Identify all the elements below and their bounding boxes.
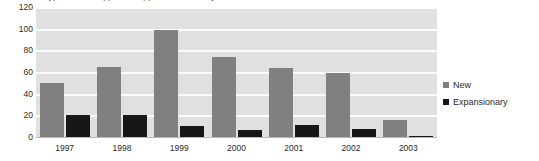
gridline [36, 29, 437, 31]
gridline [36, 50, 437, 52]
y-axis-tick-label: 60 [1, 68, 33, 77]
bar-new-2003 [383, 120, 407, 138]
x-axis-tick-label: 1999 [154, 143, 204, 153]
gridline [36, 8, 437, 9]
chart-legend: New Expansionary [443, 76, 539, 110]
x-axis-tick-label: 2001 [269, 143, 319, 153]
bar-new-1997 [40, 83, 64, 138]
bar-chart: Types of loan approvals approved over th… [0, 0, 539, 161]
bar-new-1998 [97, 67, 121, 139]
legend-item-expansionary: Expansionary [443, 93, 539, 110]
legend-item-new: New [443, 76, 539, 93]
legend-swatch-new-icon [443, 82, 449, 88]
y-axis: 120100806040200 [0, 0, 33, 161]
bar-expansionary-1998 [123, 115, 147, 138]
bar-expansionary-1997 [66, 115, 90, 138]
y-axis-tick-label: 80 [1, 46, 33, 55]
legend-swatch-expansionary-icon [443, 99, 449, 105]
x-axis-tick-label: 2003 [383, 143, 433, 153]
y-axis-tick-label: 100 [1, 25, 33, 34]
x-axis-tick-label: 1998 [97, 143, 147, 153]
bar-new-2002 [326, 73, 350, 138]
x-axis-tick-label: 2002 [326, 143, 376, 153]
y-axis-tick-label: 40 [1, 90, 33, 99]
legend-label-new: New [453, 80, 471, 90]
bar-new-1999 [154, 30, 178, 138]
y-axis-tick-label: 20 [1, 111, 33, 120]
y-axis-tick-label: 120 [1, 3, 33, 12]
x-axis-line [36, 137, 437, 138]
y-axis-tick-label: 0 [1, 133, 33, 142]
x-axis-tick-label: 2000 [212, 143, 262, 153]
plot-area [36, 8, 437, 138]
x-axis-tick-label: 1997 [40, 143, 90, 153]
bar-new-2000 [212, 57, 236, 138]
chart-title: Types of loan approvals approved over th… [44, 0, 464, 3]
bar-new-2001 [269, 68, 293, 138]
legend-label-expansionary: Expansionary [453, 97, 508, 107]
